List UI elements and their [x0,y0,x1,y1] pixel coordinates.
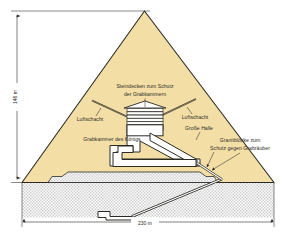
label-air-shaft-right: Luftschacht [182,114,209,120]
label-granite-blocks-line2: Schutz gegen Grabräuber [210,145,270,151]
label-granite-blocks-line1: Granitblöcke zum [220,137,260,143]
relieving-chamber-4 [127,118,163,121]
bedrock-hatch [22,183,274,218]
label-roof-slabs-line2: der Grabkammern [124,91,166,97]
kings-chamber [127,125,163,136]
label-roof-slabs-line1: Steindecken zum Schutz [116,83,174,89]
pyramid-cross-section-figure: Steindecken zum Schutz der Grabkammern L… [0,0,289,236]
pyramid-diagram-svg: Steindecken zum Schutz der Grabkammern L… [0,0,289,236]
label-grand-gallery: Große Halle [185,125,213,131]
bedrock-region [22,183,274,218]
relieving-chamber-3 [127,115,163,118]
height-dimension-label: 146 m [12,90,18,104]
relieving-chamber-1 [127,109,163,112]
label-air-shaft-left: Luftschacht [77,116,104,122]
relieving-chamber-2 [127,112,163,115]
base-dimension-label: 230 m [138,220,152,226]
label-kings-chamber: Grabkammer des Königs [83,136,141,142]
